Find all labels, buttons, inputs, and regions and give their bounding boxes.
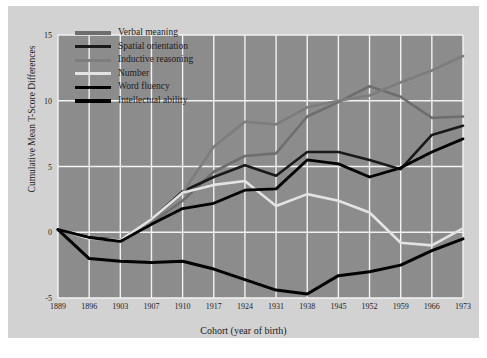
x-axis-label: Cohort (year of birth) [0,325,487,336]
legend-label: Intellectual ability [118,95,187,105]
x-tick-label: 1889 [50,302,66,311]
y-tick-label: 0 [30,228,52,237]
x-tick-label: 1966 [424,302,440,311]
x-tick-label: 1959 [393,302,409,311]
y-tick-label: 10 [30,96,52,105]
legend-swatch [75,72,111,75]
x-tick-label: 1973 [455,302,471,311]
x-tick-label: 1910 [175,302,191,311]
legend-label: Spatial orientation [118,41,188,51]
y-tick-label: 15 [30,31,52,40]
y-axis-label-wrapper: Cumulative Mean T-Score Differences [21,29,39,209]
x-tick-label: 1931 [268,302,284,311]
legend-label: Verbal meaning [118,27,178,37]
x-tick-label: 1896 [81,302,97,311]
x-tick-label: 1938 [299,302,315,311]
legend-label: Number [118,68,149,78]
legend-swatch [75,31,111,34]
x-tick-label: 1952 [362,302,378,311]
legend-label: Inductive reasoning [118,54,193,64]
legend-swatch [75,59,111,62]
x-tick-label: 1945 [330,302,346,311]
y-tick-label: -5 [30,294,52,303]
x-tick-label: 1907 [143,302,159,311]
x-tick-label: 1903 [112,302,128,311]
legend-swatch [75,86,111,89]
x-tick-label: 1917 [206,302,222,311]
legend-swatch [75,45,111,48]
legend-label: Word fluency [118,81,170,91]
figure-container: Cumulative Mean T-Score Differences Coho… [0,0,487,358]
x-tick-label: 1924 [237,302,253,311]
legend-swatch [75,99,111,102]
y-tick-label: 5 [30,162,52,171]
